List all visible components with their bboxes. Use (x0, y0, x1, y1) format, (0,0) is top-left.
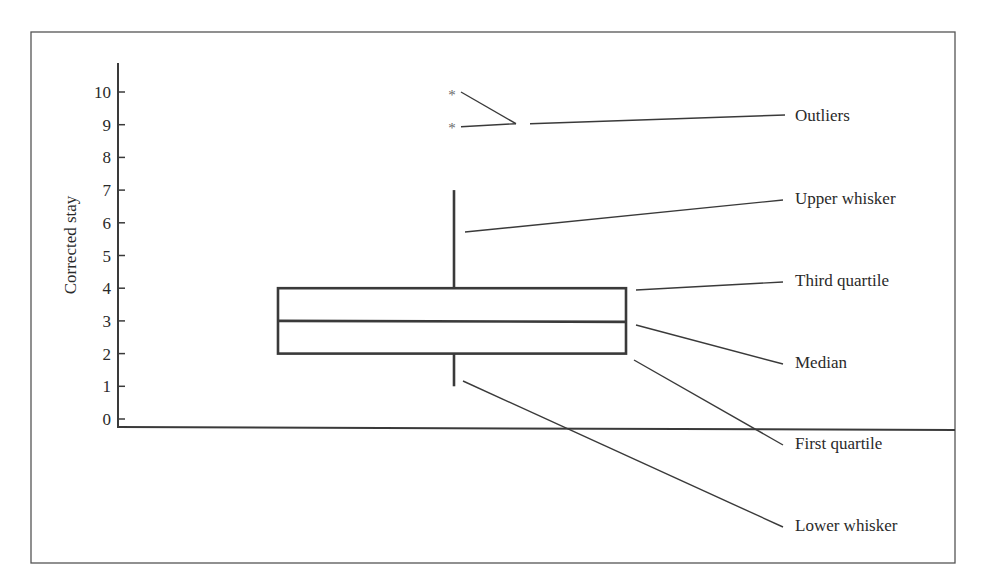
lower-whisker-label: Lower whisker (795, 516, 898, 535)
y-tick-label: 1 (103, 377, 112, 396)
y-axis-title: Corrected stay (61, 195, 80, 294)
y-tick-label: 6 (103, 214, 112, 233)
y-tick-label: 0 (103, 410, 112, 429)
outlier-marker: * (448, 87, 456, 103)
box-plot-figure: 012345678910 Corrected stay ** OutliersU… (0, 0, 984, 588)
y-tick-label: 10 (94, 83, 111, 102)
outlier-marker: * (448, 120, 456, 136)
upper-whisker-label: Upper whisker (795, 189, 896, 208)
y-tick-label: 3 (103, 312, 112, 331)
first-quartile-label: First quartile (795, 434, 882, 453)
outliers-label: Outliers (795, 106, 850, 125)
third-quartile-label: Third quartile (795, 271, 889, 290)
y-tick-label: 4 (103, 279, 112, 298)
y-tick-label: 2 (103, 345, 112, 364)
y-tick-label: 7 (103, 181, 112, 200)
y-tick-label: 5 (103, 247, 112, 266)
median-line (278, 321, 626, 322)
median-label: Median (795, 353, 847, 372)
y-tick-label: 8 (103, 148, 112, 167)
y-tick-label: 9 (103, 116, 112, 135)
